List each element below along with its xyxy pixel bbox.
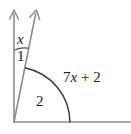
angle-x-label: x [17,32,24,47]
geometry-diagram-svg [0,0,131,134]
expression-variable: x [71,69,78,85]
angle-expression-label: 7x + 2 [63,70,101,85]
geometry-figure: x 1 2 7x + 2 [0,0,131,134]
angle-1-label: 1 [17,49,25,64]
angle-2-label: 2 [36,94,44,109]
expression-constant: 2 [93,69,101,85]
expression-operator: + [81,69,89,85]
expression-coefficient: 7 [63,69,71,85]
